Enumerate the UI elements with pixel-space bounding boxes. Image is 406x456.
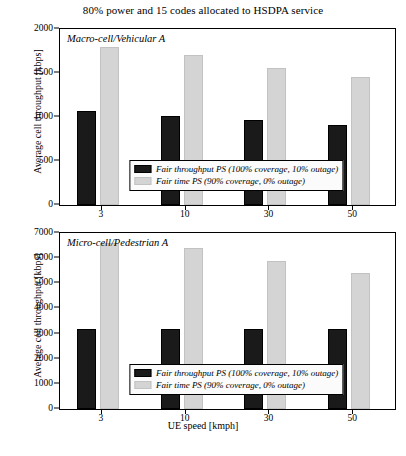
legend-entry-fair-time-ps: Fair time PS (90% coverage, 0% outage) bbox=[134, 379, 338, 391]
legend-label-fair-throughput-ps: Fair throughput PS (100% coverage, 10% o… bbox=[156, 164, 338, 174]
y-tick-label: 2000 bbox=[34, 23, 53, 33]
legend-swatch-dark-icon bbox=[134, 165, 151, 173]
y-axis-title-top: Average cell throughput [kbps] bbox=[32, 37, 43, 187]
panel-annotation-bottom: Micro-cell/Pedestrian A bbox=[67, 237, 168, 248]
legend-entry-fair-throughput-ps: Fair throughput PS (100% coverage, 10% o… bbox=[134, 163, 338, 175]
subplot-micro-cell: 01000200030004000500060007000 Average ce… bbox=[59, 232, 396, 410]
x-tick-label: 30 bbox=[264, 209, 274, 219]
bar bbox=[77, 111, 96, 205]
bar bbox=[351, 273, 370, 409]
y-tick-label: 7000 bbox=[34, 227, 53, 237]
legend-entry-fair-throughput-ps: Fair throughput PS (100% coverage, 10% o… bbox=[134, 367, 338, 379]
plot-area-top: Macro-cell/Vehicular A Fair throughput P… bbox=[59, 28, 396, 206]
x-tick-label: 3 bbox=[99, 209, 104, 219]
x-axis-title: UE speed [kmph] bbox=[0, 420, 406, 431]
bar bbox=[77, 329, 96, 409]
bar bbox=[100, 47, 119, 205]
x-tick-mark bbox=[352, 410, 353, 414]
legend-entry-fair-time-ps: Fair time PS (90% coverage, 0% outage) bbox=[134, 175, 338, 187]
x-tick-mark bbox=[268, 410, 269, 414]
x-tick-mark bbox=[185, 206, 186, 210]
legend-bottom: Fair throughput PS (100% coverage, 10% o… bbox=[129, 364, 343, 395]
legend-swatch-light-icon bbox=[134, 381, 151, 389]
legend-label-fair-time-ps: Fair time PS (90% coverage, 0% outage) bbox=[156, 176, 305, 186]
x-tick-label: 50 bbox=[347, 209, 357, 219]
bar bbox=[100, 243, 119, 409]
x-axis-top: 3103050 bbox=[59, 206, 396, 226]
panel-annotation-top: Macro-cell/Vehicular A bbox=[67, 33, 165, 44]
legend-label-fair-time-ps: Fair time PS (90% coverage, 0% outage) bbox=[156, 380, 305, 390]
x-tick-mark bbox=[352, 206, 353, 210]
legend-label-fair-throughput-ps: Fair throughput PS (100% coverage, 10% o… bbox=[156, 368, 338, 378]
x-tick-mark bbox=[268, 206, 269, 210]
x-tick-mark bbox=[185, 410, 186, 414]
x-tick-label: 10 bbox=[180, 209, 190, 219]
y-axis-title-bottom: Average cell throughput [kbps] bbox=[32, 241, 43, 391]
x-tick-mark bbox=[101, 410, 102, 414]
x-tick-mark bbox=[101, 206, 102, 210]
plot-area-bottom: Micro-cell/Pedestrian A Fair throughput … bbox=[59, 232, 396, 410]
y-tick-label: 0 bbox=[48, 199, 53, 209]
y-tick-label: 0 bbox=[48, 403, 53, 413]
bar bbox=[351, 77, 370, 205]
figure-title: 80% power and 15 codes allocated to HSDP… bbox=[0, 4, 406, 16]
legend-top: Fair throughput PS (100% coverage, 10% o… bbox=[129, 160, 343, 191]
legend-swatch-dark-icon bbox=[134, 369, 151, 377]
figure-root: 80% power and 15 codes allocated to HSDP… bbox=[0, 0, 406, 456]
legend-swatch-light-icon bbox=[134, 177, 151, 185]
subplot-macro-cell: 0500100015002000 Average cell throughput… bbox=[59, 28, 396, 206]
